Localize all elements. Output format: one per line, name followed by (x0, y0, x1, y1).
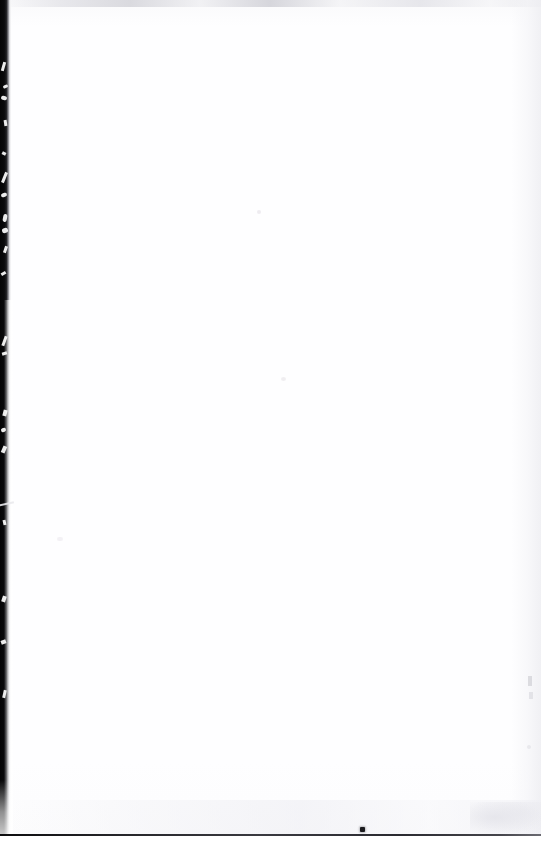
left-binding-shadow (0, 0, 11, 842)
bottom-edge-fill (0, 836, 541, 842)
page-paper-surface (0, 0, 541, 842)
scanned-document-page (0, 0, 541, 842)
ink-speck-icon (360, 827, 365, 832)
